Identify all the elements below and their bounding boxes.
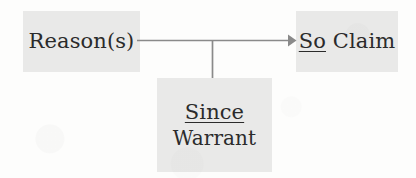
toulmin-diagram: Reason(s) So Claim Since Warrant <box>0 0 416 178</box>
reason-node-label: Reason(s) <box>29 30 135 54</box>
warrant-connective-label: Since <box>185 101 244 125</box>
claim-connective-label: So <box>299 29 326 53</box>
claim-node-text: So Claim <box>299 30 395 54</box>
warrant-node-label: Warrant <box>173 127 256 149</box>
reason-node: Reason(s) <box>23 11 140 72</box>
claim-node-label: Claim <box>333 29 395 53</box>
warrant-node: Since Warrant <box>157 78 272 172</box>
claim-node-label-spacer <box>326 29 333 53</box>
claim-node: So Claim <box>296 11 398 72</box>
